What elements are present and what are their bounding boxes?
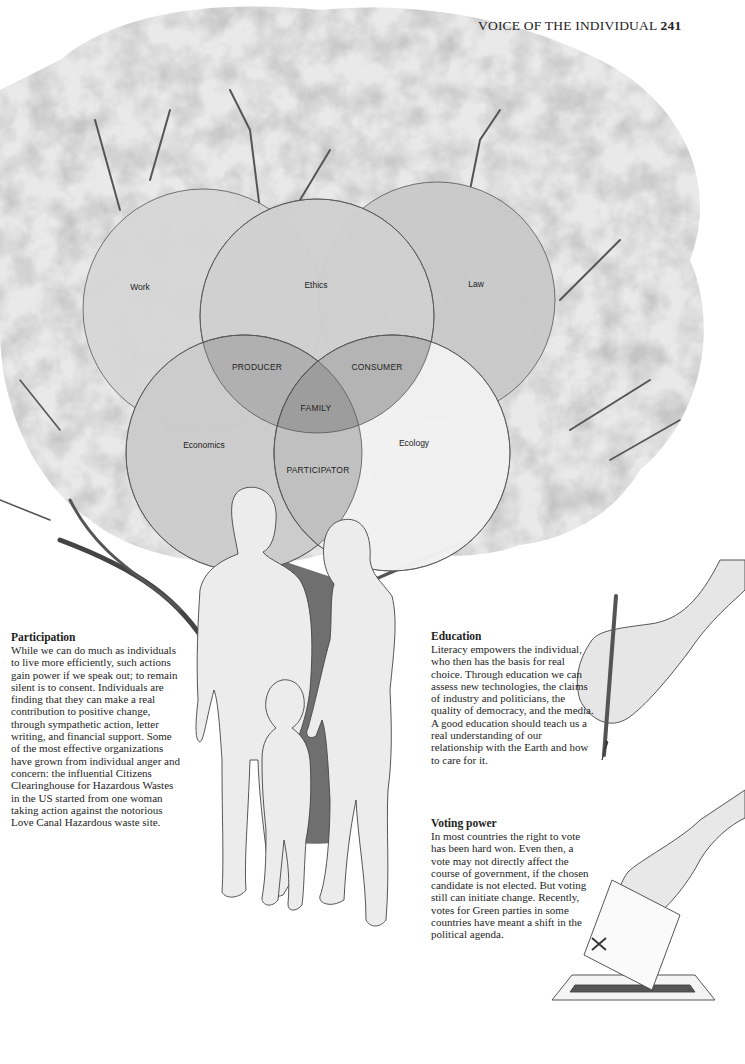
- venn-label-producer: PRODUCER: [232, 362, 282, 372]
- voting-power-heading: Voting power: [431, 817, 591, 830]
- venn-label-law: Law: [468, 279, 484, 289]
- page-number: 241: [661, 18, 682, 33]
- running-title: VOICE OF THE INDIVIDUAL: [478, 18, 657, 33]
- education-heading: Education: [431, 630, 595, 643]
- venn-label-consumer: CONSUMER: [351, 362, 402, 372]
- voting-power-body: In most countries the right to vote has …: [431, 830, 591, 941]
- venn-label-family: FAMILY: [301, 403, 332, 413]
- venn-label-participator: PARTICIPATOR: [286, 465, 349, 475]
- participation-section: Participation While we can do much as in…: [11, 631, 183, 828]
- running-head: VOICE OF THE INDIVIDUAL 241: [478, 18, 681, 34]
- participation-heading: Participation: [11, 631, 183, 644]
- voting-power-section: Voting power In most countries the right…: [431, 817, 591, 941]
- venn-label-economics: Economics: [183, 440, 225, 450]
- education-body: Literacy empowers the individual, who th…: [431, 643, 595, 766]
- venn-label-work: Work: [130, 282, 150, 292]
- page-illustration: Work Ethics Law Economics Ecology PRODUC…: [0, 0, 745, 1064]
- venn-label-ecology: Ecology: [399, 438, 430, 448]
- participation-body: While we can do much as individuals to l…: [11, 644, 183, 828]
- pencil-hand-illustration: [577, 560, 745, 760]
- venn-diagram: [83, 182, 555, 571]
- education-section: Education Literacy empowers the individu…: [431, 630, 595, 766]
- venn-label-ethics: Ethics: [304, 280, 327, 290]
